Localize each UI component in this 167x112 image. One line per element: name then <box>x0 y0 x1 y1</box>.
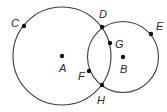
point-e-label: E <box>156 20 164 32</box>
point-d-dot <box>100 25 104 29</box>
point-c-label: C <box>11 17 19 29</box>
point-b: B <box>120 55 127 75</box>
point-c: C <box>11 17 26 29</box>
point-h-label: H <box>97 94 105 106</box>
two-circles-diagram: A B C D E F G H <box>0 0 167 112</box>
point-a-dot <box>60 54 64 58</box>
point-f-label: F <box>78 70 86 82</box>
point-a-label: A <box>58 62 66 74</box>
point-e-dot <box>149 32 153 36</box>
point-g-label: G <box>115 38 124 50</box>
point-g-dot <box>108 41 112 45</box>
point-c-dot <box>22 24 26 28</box>
point-b-label: B <box>120 63 127 75</box>
point-f: F <box>78 69 91 82</box>
point-h-dot <box>100 83 104 87</box>
point-e: E <box>149 20 164 36</box>
point-b-dot <box>121 55 125 59</box>
point-a: A <box>58 54 66 74</box>
point-f-dot <box>87 69 91 73</box>
point-d-label: D <box>99 8 107 20</box>
